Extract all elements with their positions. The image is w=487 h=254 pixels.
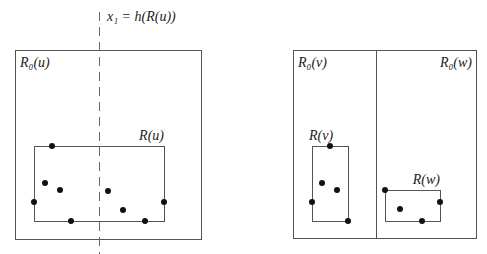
right-panel: R₀(v)R₀(w)R(v)R(w) xyxy=(294,50,477,239)
bounding-box-r-v xyxy=(313,147,349,222)
point xyxy=(31,199,37,205)
point xyxy=(397,206,403,212)
outer-region-r0-u xyxy=(16,51,202,240)
point xyxy=(382,187,388,193)
point xyxy=(309,199,315,205)
bounding-box-r-w xyxy=(386,191,441,222)
point xyxy=(345,218,351,224)
point xyxy=(142,218,148,224)
point xyxy=(319,180,325,186)
label-r-u: R(u) xyxy=(138,128,164,144)
point xyxy=(42,180,48,186)
diagram-svg: R₀(u)R(u)x₁ = h(R(u)) R₀(v)R₀(w)R(v)R(w) xyxy=(0,0,487,254)
point xyxy=(49,143,55,149)
label-r0-w: R₀(w) xyxy=(439,55,472,71)
point xyxy=(437,199,443,205)
point xyxy=(327,143,333,149)
point xyxy=(161,199,167,205)
point xyxy=(334,187,340,193)
point xyxy=(120,207,126,213)
split-label: x₁ = h(R(u)) xyxy=(106,9,176,25)
label-r0-v: R₀(v) xyxy=(297,55,327,71)
label-r-v: R(v) xyxy=(308,128,333,144)
diagram-canvas: R₀(u)R(u)x₁ = h(R(u)) R₀(v)R₀(w)R(v)R(w) xyxy=(0,0,487,254)
point xyxy=(68,218,74,224)
point xyxy=(419,218,425,224)
label-r0-u: R₀(u) xyxy=(19,55,50,71)
point xyxy=(105,188,111,194)
label-r-w: R(w) xyxy=(412,172,441,188)
left-panel: R₀(u)R(u)x₁ = h(R(u)) xyxy=(16,9,202,254)
point xyxy=(57,187,63,193)
